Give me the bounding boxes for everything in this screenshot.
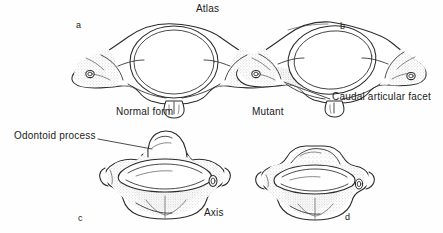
panel-caption-mutant: Mutant — [252, 107, 284, 117]
panel-letter-d: d — [345, 213, 350, 222]
panel-letter-b: b — [340, 22, 345, 31]
panel-b-atlas-mutant — [237, 22, 427, 117]
annotation-caudal-articular-facet: Caudal articular facet — [332, 92, 431, 102]
leader-line-odontoid-process — [98, 139, 152, 149]
panel-d-axis-mutant — [256, 146, 375, 220]
figure-title-atlas: Atlas — [196, 4, 219, 14]
figure-title-axis: Axis — [204, 208, 224, 218]
annotation-odontoid-process: Odontoid process — [14, 131, 96, 141]
anatomical-figure: Atlas Axis a b c d Normal form Mutant Ca… — [0, 0, 443, 233]
panel-caption-normal-form: Normal form — [116, 107, 173, 117]
panel-letter-a: a — [76, 21, 81, 30]
panel-letter-c: c — [78, 214, 83, 223]
panel-c-axis-normal — [100, 131, 231, 219]
figure-drawing-canvas — [0, 0, 443, 233]
